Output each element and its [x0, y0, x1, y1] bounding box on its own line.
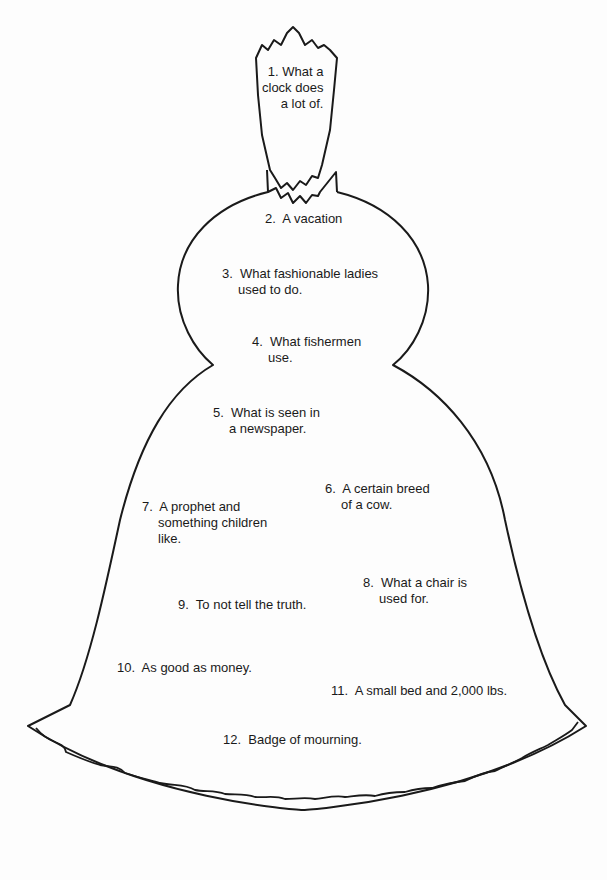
clue-number: 5. [213, 405, 224, 421]
clue-text: A small bed and 2,000 lbs. [355, 683, 508, 698]
clue-text: What a chair is [381, 575, 467, 590]
clue-text: used for. [363, 591, 467, 607]
clue-11: 11. A small bed and 2,000 lbs. [331, 683, 507, 699]
bell-neck-scallop [267, 170, 337, 203]
clue-1: 1. What a clock does a lot of. [262, 64, 323, 112]
clue-text: something children [142, 515, 267, 531]
clue-text: Badge of mourning. [248, 732, 361, 747]
clue-text: A certain breed [342, 481, 429, 496]
clue-6: 6. A certain breed of a cow. [325, 481, 430, 513]
clue-9: 9. To not tell the truth. [178, 597, 306, 613]
clue-number: 10. [117, 660, 135, 676]
clue-number: 12. [223, 732, 241, 748]
clue-12: 12. Badge of mourning. [223, 732, 362, 748]
clue-text: used to do. [222, 282, 378, 298]
clue-text: clock does [262, 80, 323, 96]
bell-outline [0, 0, 607, 880]
clue-number: 2. [265, 211, 276, 227]
clue-text: To not tell the truth. [196, 597, 307, 612]
clue-text: of a cow. [325, 497, 430, 513]
clue-text: What fishermen [270, 334, 361, 349]
clue-number: 11. [331, 683, 348, 699]
clue-number: 4. [252, 334, 263, 350]
clue-2: 2. A vacation [265, 211, 342, 227]
clue-3: 3. What fashionable ladies used to do. [222, 266, 378, 298]
clue-8: 8. What a chair is used for. [363, 575, 467, 607]
clue-number: 1. [268, 64, 279, 80]
clue-text: What fashionable ladies [240, 266, 378, 281]
clue-text: use. [252, 350, 361, 366]
clue-5: 5. What is seen in a newspaper. [213, 405, 320, 437]
clue-text: A prophet and [159, 499, 240, 514]
clue-text: What a [282, 64, 323, 79]
clue-text: As good as money. [142, 660, 252, 675]
clue-text: A vacation [282, 211, 342, 226]
clue-number: 9. [178, 597, 189, 613]
clue-7: 7. A prophet and something children like… [142, 499, 267, 547]
clue-number: 8. [363, 575, 374, 591]
clue-number: 3. [222, 266, 233, 282]
clue-text: a newspaper. [213, 421, 320, 437]
clue-4: 4. What fishermen use. [252, 334, 361, 366]
clue-text: like. [142, 531, 267, 547]
clue-number: 6. [325, 481, 336, 497]
clue-text: What is seen in [231, 405, 320, 420]
clue-10: 10. As good as money. [117, 660, 252, 676]
clue-text: a lot of. [262, 96, 323, 112]
clue-number: 7. [142, 499, 153, 515]
